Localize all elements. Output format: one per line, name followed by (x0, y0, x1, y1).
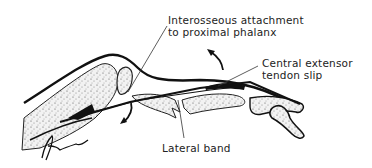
middle-phalanx-distal (182, 94, 245, 114)
label-lateral-band: Lateral band (162, 142, 231, 154)
label-central-line1: Central extensor (262, 57, 353, 69)
artist-signature-icon (42, 136, 88, 160)
extension-arrow-icon (211, 52, 223, 70)
proximal-phalanx-head (117, 67, 132, 94)
leader-interosseous (128, 26, 167, 92)
label-interosseous-attachment: Interosseous attachment to proximal phal… (168, 14, 304, 38)
label-central-line2: tendon slip (262, 69, 353, 81)
label-central-extensor-slip: Central extensor tendon slip (262, 57, 353, 81)
label-lateral-line1: Lateral band (162, 142, 231, 154)
label-interosseous-line1: Interosseous attachment (168, 14, 304, 26)
label-interosseous-line2: to proximal phalanx (168, 26, 304, 38)
diagram-canvas: Interosseous attachment to proximal phal… (0, 0, 372, 168)
